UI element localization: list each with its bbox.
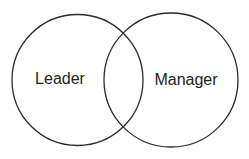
- leader-label: Leader: [35, 70, 85, 87]
- venn-diagram: Leader Manager: [0, 0, 249, 159]
- manager-label: Manager: [154, 71, 218, 88]
